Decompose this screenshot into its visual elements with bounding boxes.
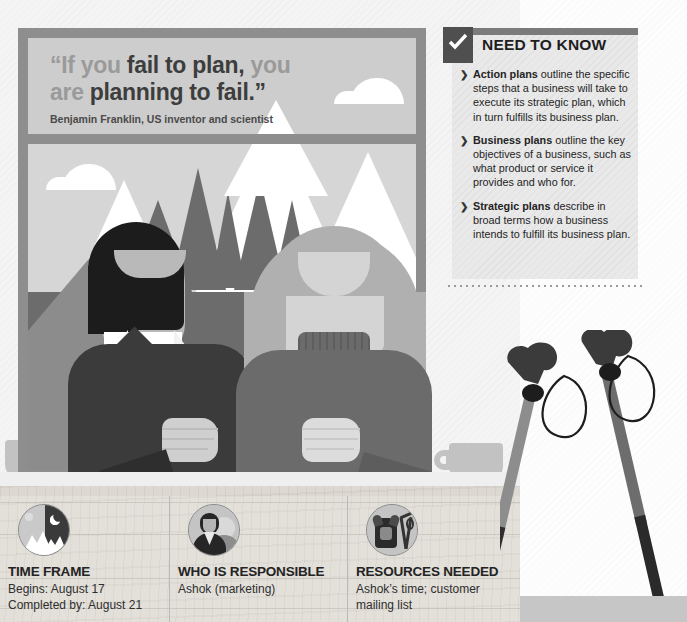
illustration-scene: “If you fail to plan, you are planning t… xyxy=(0,0,520,622)
backpack-poles-icon xyxy=(366,504,418,556)
woman-finger-line-3 xyxy=(306,448,354,450)
item-lead: Action plans xyxy=(473,68,538,80)
list-item: ❯ Business plans outline the key objecti… xyxy=(460,133,632,190)
card-time-frame[interactable]: TIME FRAME Begins: August 17 Completed b… xyxy=(0,496,169,622)
floor-strip xyxy=(520,596,687,622)
panel-title: NEED TO KNOW xyxy=(482,36,606,54)
quote-line-1: “If you fail to plan, you xyxy=(50,52,380,79)
check-icon xyxy=(443,27,473,63)
person-woman xyxy=(240,222,430,484)
poster-frame-divider xyxy=(28,134,416,144)
card-resources-needed[interactable]: RESOURCES NEEDED Ashok’s time; customer … xyxy=(347,496,520,622)
woman-finger-line-1 xyxy=(302,428,360,430)
pole-right xyxy=(581,330,667,615)
pole-left xyxy=(500,342,557,617)
man-finger-line-3 xyxy=(162,448,208,450)
infographic-page: “If you fail to plan, you are planning t… xyxy=(0,0,687,622)
mountain-day-night-icon xyxy=(18,504,70,556)
woman-hand xyxy=(302,418,360,462)
card-title: WHO IS RESPONSIBLE xyxy=(178,564,347,579)
card-line-1: Ashok’s time; customer xyxy=(356,581,520,597)
card-title: TIME FRAME xyxy=(8,564,169,579)
trekking-poles xyxy=(500,330,687,622)
card-line-2: mailing list xyxy=(356,597,520,613)
need-to-know-panel: NEED TO KNOW ❯ Action plans outline the … xyxy=(452,33,638,279)
item-lead: Business plans xyxy=(473,134,552,146)
summary-cards: TIME FRAME Begins: August 17 Completed b… xyxy=(0,496,520,622)
man-finger-line-1 xyxy=(162,428,218,430)
chevron-right-icon: ❯ xyxy=(460,134,468,148)
card-line-1: Begins: August 17 xyxy=(8,581,169,597)
desk-front-edge xyxy=(0,472,520,486)
quote-line-2: are planning to fail.” xyxy=(50,79,380,106)
person-man xyxy=(58,222,258,484)
chevron-right-icon: ❯ xyxy=(460,68,468,82)
card-line-2: Completed by: August 21 xyxy=(8,597,169,613)
chevron-right-icon: ❯ xyxy=(460,200,468,214)
man-hair-side xyxy=(88,266,132,334)
list-item: ❯ Action plans outline the specific step… xyxy=(460,67,632,124)
woman-finger-line-2 xyxy=(304,438,358,440)
card-title: RESOURCES NEEDED xyxy=(356,564,520,579)
panel-top-bar xyxy=(452,28,638,35)
man-finger-line-2 xyxy=(162,438,214,440)
man-hand xyxy=(162,418,218,462)
need-to-know-list: ❯ Action plans outline the specific step… xyxy=(460,67,632,250)
item-lead: Strategic plans xyxy=(473,200,550,212)
two-people-icon xyxy=(188,504,240,556)
card-line-1: Ashok (marketing) xyxy=(178,581,347,597)
list-item: ❯ Strategic plans describe in broad term… xyxy=(460,199,632,242)
quote-attribution: Benjamin Franklin, US inventor and scien… xyxy=(50,113,380,125)
dotted-divider xyxy=(446,284,642,288)
quote-block: “If you fail to plan, you are planning t… xyxy=(50,52,380,125)
card-who-is-responsible[interactable]: WHO IS RESPONSIBLE Ashok (marketing) xyxy=(169,496,347,622)
